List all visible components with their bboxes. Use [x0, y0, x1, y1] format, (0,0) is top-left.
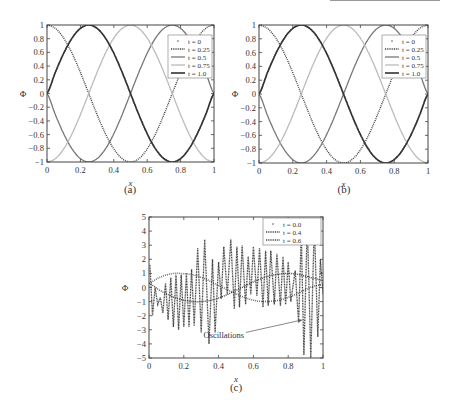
- legend-label: t = 0.5: [188, 54, 207, 62]
- x-tick-label: 0: [147, 361, 151, 371]
- legend-label: t = 0.25: [402, 46, 424, 54]
- y-tick-label: 0.8: [33, 34, 44, 44]
- x-tick-label: 0.8: [389, 166, 400, 176]
- legend: t = 0.0t = 0.4t = 0.6: [263, 218, 321, 245]
- y-tick-label: −0.4: [29, 116, 45, 126]
- y-axis-label: Φ: [122, 283, 129, 293]
- y-tick-label: −0.6: [241, 130, 256, 140]
- annotation-arrow: [246, 320, 302, 333]
- x-tick-label: 1: [426, 166, 430, 176]
- y-tick-label: −1: [247, 158, 256, 168]
- x-tick-label: 1: [212, 165, 216, 175]
- legend-marker: [272, 223, 274, 225]
- y-tick-label: −4: [137, 339, 147, 349]
- y-tick-label: −0.2: [29, 102, 44, 112]
- y-tick-label: −1: [137, 297, 146, 307]
- x-tick-label: 0.4: [108, 165, 119, 175]
- y-tick-label: 2: [142, 254, 146, 264]
- y-tick-label: 0: [142, 283, 146, 293]
- panel-caption: (b): [338, 183, 351, 196]
- y-tick-label: −1: [35, 157, 44, 167]
- y-tick-label: 3: [142, 240, 146, 250]
- y-tick-label: −0.6: [29, 130, 44, 140]
- y-tick-label: 0: [40, 89, 44, 99]
- legend-label: t = 1.0: [402, 70, 421, 78]
- chart-panel-a: 00.20.40.60.81−1−0.8−0.6−0.4−0.200.20.40…: [20, 20, 216, 196]
- y-tick-label: 5: [142, 212, 146, 222]
- legend: t = 0t = 0.25t = 0.5t = 0.75t = 1.0: [382, 35, 426, 78]
- y-tick-label: 4: [142, 226, 147, 236]
- y-tick-label: 0.4: [33, 61, 44, 71]
- annotation: Oscillations: [204, 319, 303, 340]
- figure: 00.20.40.60.81−1−0.8−0.6−0.4−0.200.20.40…: [0, 0, 450, 408]
- y-tick-label: 0.6: [245, 48, 256, 58]
- x-tick-label: 0.8: [283, 361, 294, 371]
- y-tick-label: −5: [137, 353, 146, 363]
- y-tick-label: −0.8: [241, 144, 256, 154]
- panel-caption: (c): [230, 381, 243, 394]
- y-tick-label: −3: [137, 325, 146, 335]
- x-tick-label: 0.2: [178, 361, 189, 371]
- y-tick-label: −2: [137, 311, 146, 321]
- legend-label: t = 0: [402, 38, 415, 46]
- figure-canvas: 00.20.40.60.81−1−0.8−0.6−0.4−0.200.20.40…: [0, 0, 450, 408]
- y-tick-label: 1: [40, 20, 44, 30]
- y-axis-label: Φ: [232, 89, 239, 99]
- y-tick-label: −0.2: [241, 103, 256, 113]
- x-tick-label: 0.2: [75, 165, 86, 175]
- y-axis-label: Φ: [20, 89, 27, 99]
- page-header-rule: [330, 0, 440, 1]
- y-tick-label: 0.2: [245, 75, 256, 85]
- legend-label: t = 0.4: [283, 229, 302, 237]
- y-tick-label: 0.8: [245, 34, 256, 44]
- legend-label: t = 0.0: [283, 221, 302, 229]
- x-tick-label: 0.8: [175, 165, 186, 175]
- chart-panel-c: 00.20.40.60.81−5−4−3−2−1012345xΦ(c)t = 0…: [122, 212, 325, 394]
- x-tick-label: 0.4: [213, 361, 224, 371]
- annotation-text: Oscillations: [204, 330, 245, 340]
- x-tick-label: 0: [257, 166, 261, 176]
- x-tick-label: 0.2: [287, 166, 298, 176]
- chart-panel-b: 00.20.40.60.81−1−0.8−0.6−0.4−0.200.20.40…: [232, 20, 430, 196]
- x-tick-label: 0.6: [142, 165, 153, 175]
- x-tick-label: 0.4: [321, 166, 332, 176]
- legend-label: t = 1.0: [188, 70, 207, 78]
- x-tick-label: 1: [321, 361, 325, 371]
- y-tick-label: −0.4: [241, 117, 257, 127]
- y-tick-label: 1: [252, 20, 256, 30]
- legend-label: t = 0: [188, 38, 201, 46]
- y-tick-label: 0: [252, 89, 256, 99]
- legend: t = 0t = 0.25t = 0.5t = 0.75t = 1.0: [168, 35, 212, 78]
- arrowhead-icon: [298, 319, 302, 322]
- y-tick-label: 1: [142, 268, 146, 278]
- legend-label: t = 0.75: [188, 62, 210, 70]
- legend-label: t = 0.5: [402, 54, 421, 62]
- y-tick-label: 0.4: [245, 61, 256, 71]
- y-tick-label: 0.6: [33, 47, 44, 57]
- legend-marker: [177, 40, 179, 42]
- panel-caption: (a): [124, 183, 137, 196]
- x-tick-label: 0.6: [355, 166, 366, 176]
- legend-label: t = 0.75: [402, 62, 424, 70]
- x-tick-label: 0: [45, 165, 49, 175]
- x-tick-label: 0.6: [248, 361, 259, 371]
- legend-marker: [391, 40, 393, 42]
- y-tick-label: 0.2: [33, 75, 44, 85]
- legend-label: t = 0.6: [283, 237, 302, 245]
- legend-label: t = 0.25: [188, 46, 210, 54]
- y-tick-label: −0.8: [29, 143, 44, 153]
